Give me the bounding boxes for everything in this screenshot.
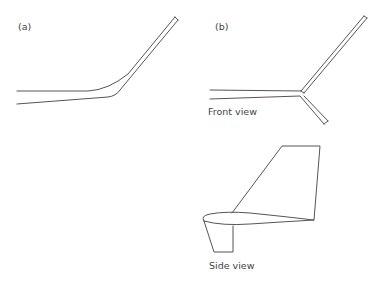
split-winglet-front xyxy=(210,16,367,124)
blended-winglet-front xyxy=(17,17,178,104)
split-winglet-side xyxy=(203,146,320,252)
winglet-diagram xyxy=(0,0,382,282)
